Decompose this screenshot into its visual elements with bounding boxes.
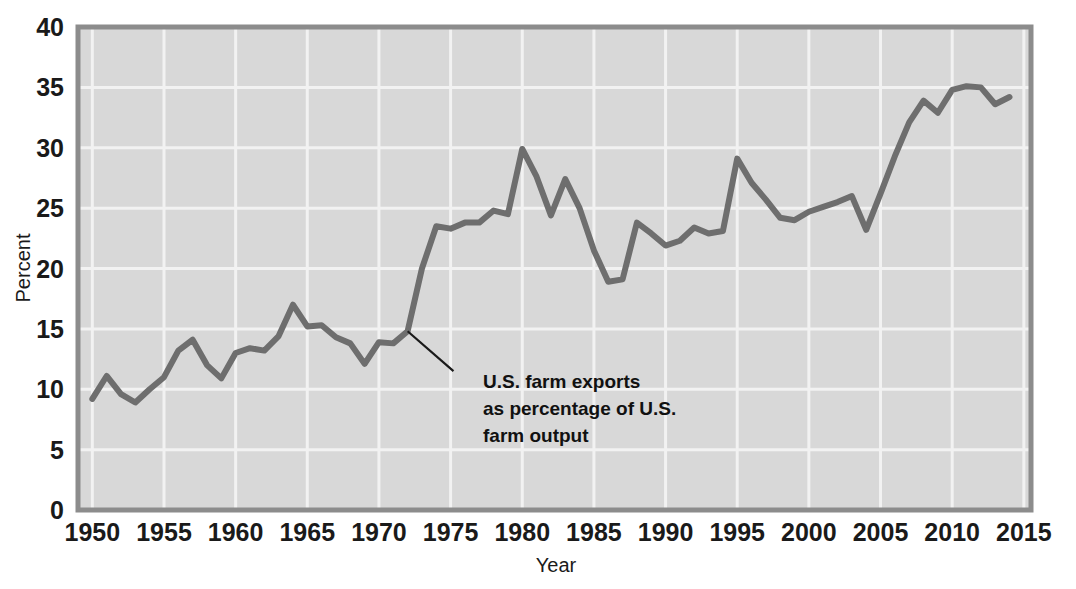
annotation-line-3: farm output (483, 425, 589, 446)
line-chart: 1950195519601965197019751980198519901995… (0, 0, 1076, 589)
y-tick-label: 20 (36, 255, 64, 283)
y-tick-label: 35 (36, 73, 64, 101)
annotation-line-2: as percentage of U.S. (483, 398, 676, 419)
y-axis-title: Percent (12, 233, 34, 302)
y-tick-label: 30 (36, 134, 64, 162)
x-tick-label: 2015 (996, 518, 1052, 546)
x-tick-label: 2005 (853, 518, 909, 546)
x-tick-label: 1970 (351, 518, 407, 546)
y-tick-label: 10 (36, 375, 64, 403)
x-tick-label: 2000 (781, 518, 837, 546)
y-tick-label: 40 (36, 13, 64, 41)
annotation-line-1: U.S. farm exports (483, 371, 640, 392)
x-tick-label: 1950 (65, 518, 121, 546)
x-tick-label: 1955 (136, 518, 192, 546)
x-tick-label: 1965 (279, 518, 335, 546)
x-tick-label: 1990 (638, 518, 694, 546)
chart-figure: 1950195519601965197019751980198519901995… (0, 0, 1076, 589)
x-tick-label: 1975 (423, 518, 479, 546)
x-tick-label: 2010 (924, 518, 980, 546)
x-axis-title: Year (536, 554, 577, 576)
x-tick-label: 1985 (566, 518, 622, 546)
x-tick-label: 1995 (709, 518, 765, 546)
y-tick-label: 25 (36, 194, 64, 222)
y-tick-label: 5 (50, 436, 64, 464)
x-tick-label: 1960 (208, 518, 264, 546)
x-tick-label: 1980 (494, 518, 550, 546)
y-tick-label: 15 (36, 315, 64, 343)
y-tick-label: 0 (50, 496, 64, 524)
